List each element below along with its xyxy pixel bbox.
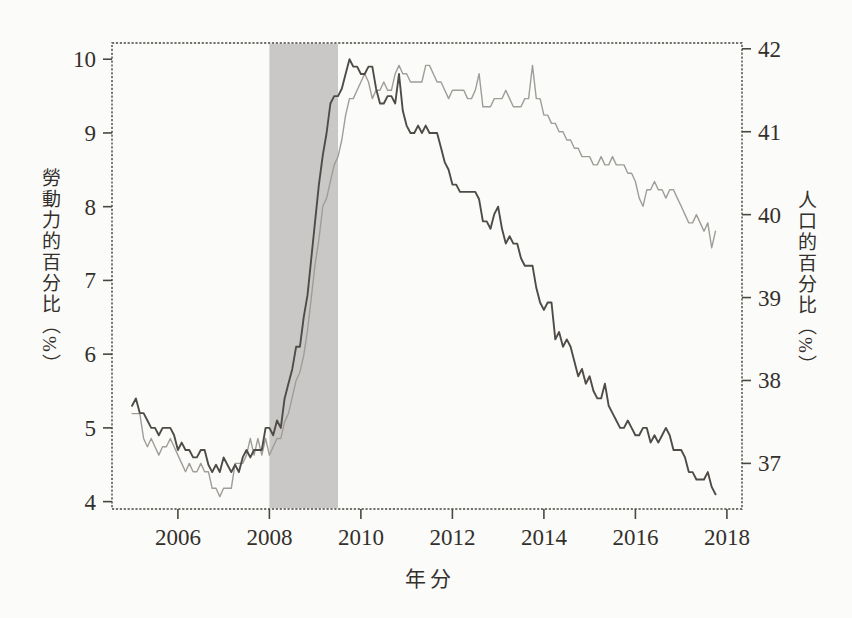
left-axis-ticks: 45678910 bbox=[73, 47, 112, 514]
left-tick-label: 10 bbox=[73, 47, 96, 72]
right-axis-title: 人口的百分比（%） bbox=[792, 190, 819, 376]
plot-frame bbox=[112, 43, 742, 509]
x-tick-label: 2016 bbox=[612, 525, 658, 550]
x-axis-ticks: 2006200820102012201420162018 bbox=[155, 509, 750, 550]
x-tick-label: 2018 bbox=[704, 525, 750, 550]
x-tick-label: 2006 bbox=[155, 525, 201, 550]
x-tick-label: 2012 bbox=[429, 525, 475, 550]
left-tick-label: 9 bbox=[85, 121, 97, 146]
right-axis-ticks: 373839404142 bbox=[742, 37, 781, 477]
x-tick-label: 2014 bbox=[521, 525, 568, 550]
right-tick-label: 41 bbox=[758, 120, 781, 145]
x-tick-label: 2010 bbox=[338, 525, 384, 550]
left-tick-label: 8 bbox=[85, 195, 97, 220]
right-tick-label: 38 bbox=[758, 368, 781, 393]
right-tick-label: 42 bbox=[758, 37, 781, 62]
dual-axis-line-chart: 4567891037383940414220062008201020122014… bbox=[0, 0, 852, 618]
series-line-left bbox=[132, 59, 715, 494]
x-tick-label: 2008 bbox=[246, 525, 292, 550]
right-tick-label: 37 bbox=[758, 451, 781, 476]
x-axis-title: 年分 bbox=[405, 562, 455, 592]
left-tick-label: 6 bbox=[85, 342, 97, 367]
right-tick-label: 39 bbox=[758, 286, 781, 311]
left-tick-label: 4 bbox=[85, 490, 97, 515]
left-tick-label: 5 bbox=[85, 416, 97, 441]
scanned-chart-page: 4567891037383940414220062008201020122014… bbox=[0, 0, 852, 618]
left-tick-label: 7 bbox=[85, 268, 97, 293]
left-axis-title: 勞動力的百分比（%） bbox=[36, 168, 63, 375]
right-tick-label: 40 bbox=[758, 203, 781, 228]
